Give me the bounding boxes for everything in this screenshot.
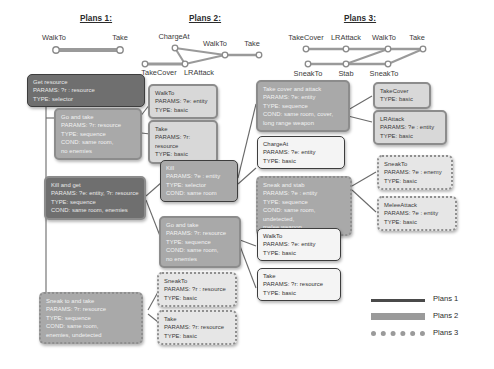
node-lrattack[interactable]: LRAttack PARAMS: ?e : entity TYPE: basic: [373, 110, 447, 145]
node-chargeat[interactable]: ChargeAt PARAMS: ?e: entity TYPE: basic: [257, 136, 345, 169]
legend-swatch-plans1: [371, 299, 425, 302]
legend-label-plans3: Plans 3: [433, 328, 458, 337]
node-walkto-2[interactable]: WalkTo PARAMS: ?e: entity TYPE: basic: [257, 228, 341, 261]
node-meleeattack[interactable]: MeleeAttack PARAMS: ?e : entity TYPE: ba…: [377, 196, 457, 231]
diagram-canvas: Plans 1: WalkTo Take Plans 2: ChargeAt W…: [0, 0, 494, 369]
node-take-1[interactable]: Take PARAMS: ?r: resource TYPE: basic: [148, 120, 218, 164]
node-take-2[interactable]: Take PARAMS: ?r: resource TYPE: basic: [257, 268, 341, 301]
node-sneak-to-and-take[interactable]: Sneak to and take PARAMS: ?r: resource T…: [39, 292, 143, 344]
node-takecover[interactable]: TakeCover TYPE: basic: [373, 82, 431, 109]
node-sneakto-mid[interactable]: SneakTo PARAMS: ?r : resource TYPE: basi…: [157, 272, 237, 307]
legend-swatch-plans2: [371, 313, 425, 320]
node-go-and-take-2[interactable]: Go and take PARAMS: ?r: resource TYPE: s…: [159, 216, 241, 268]
node-get-resource[interactable]: Get resource PARAMS: ?r : resource TYPE:…: [27, 74, 145, 107]
legend: Plans 1 Plans 2 Plans 3: [371, 290, 487, 341]
legend-row-plans1: Plans 1: [371, 290, 487, 307]
node-kill-and-get[interactable]: Kill and get PARAMS: ?e: entity, ?r: res…: [44, 176, 146, 220]
legend-label-plans2: Plans 2: [433, 311, 458, 320]
node-go-and-take-1[interactable]: Go and take PARAMS: ?r: resource TYPE: s…: [54, 108, 142, 160]
node-take-mid[interactable]: Take PARAMS: ?r: resource TYPE: basic: [157, 310, 237, 345]
legend-swatch-plans3: [371, 331, 425, 336]
legend-row-plans3: Plans 3: [371, 324, 487, 341]
node-kill[interactable]: Kill PARAMS: ?e : entity TYPE: selector …: [160, 160, 238, 202]
node-take-cover-and-attack[interactable]: Take cover and attack PARAMS: ?e: entity…: [256, 80, 350, 132]
legend-label-plans1: Plans 1: [433, 294, 458, 303]
legend-row-plans2: Plans 2: [371, 307, 487, 324]
node-walkto-1[interactable]: WalkTo PARAMS: ?e: entity TYPE: basic: [148, 84, 218, 119]
node-sneakto-right[interactable]: SneakTo PARAMS: ?e : enemy TYPE: basic: [377, 155, 453, 190]
